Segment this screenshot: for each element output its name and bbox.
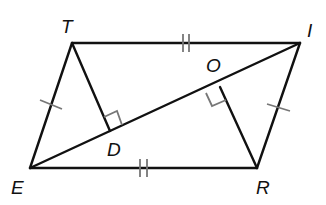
vertex-label-o: O (206, 55, 221, 76)
vertex-label-d: D (107, 139, 121, 160)
altitude-ro (220, 87, 257, 168)
vertex-label-r: R (256, 177, 270, 198)
parallelogram-diagram: T I O D E R (0, 0, 326, 205)
altitude-td (72, 43, 110, 131)
vertex-label-i: I (307, 20, 313, 41)
vertex-label-t: T (61, 16, 74, 37)
diagonal-ei (30, 43, 300, 168)
vertex-label-e: E (11, 177, 24, 198)
segment-te (30, 43, 72, 168)
segment-ir (257, 43, 300, 168)
